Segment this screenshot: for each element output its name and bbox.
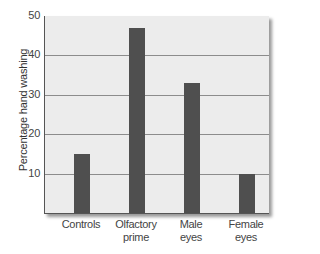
y-tick-label: 10	[20, 167, 40, 179]
gridline	[45, 95, 269, 96]
bar	[184, 83, 200, 213]
y-tick-label: 50	[20, 9, 40, 21]
y-tick-label: 40	[20, 48, 40, 60]
bar	[239, 174, 255, 213]
bar	[74, 154, 90, 213]
y-tick-label: 30	[20, 88, 40, 100]
gridline	[45, 134, 269, 135]
y-tick-label: 20	[20, 127, 40, 139]
x-tick-label: Femaleeyes	[211, 218, 281, 244]
gridline	[45, 55, 269, 56]
plot-area	[44, 16, 269, 214]
bar	[129, 28, 145, 213]
